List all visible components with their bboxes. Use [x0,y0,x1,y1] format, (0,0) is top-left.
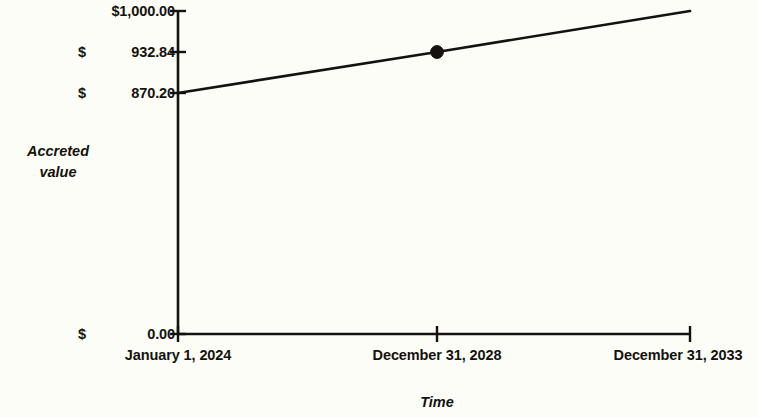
y-tick-label-1000: $1,000.00 [78,2,175,20]
y-tick-label-932-value: 932.84 [131,43,175,61]
data-point-marker [431,46,444,59]
x-tick-label-middle: December 31, 2028 [347,345,527,365]
y-tick-label-870: $ 870.20 [78,84,175,102]
y-tick-label-870-value: 870.20 [131,84,175,102]
y-tick-label-zero: $ 0.00 [78,325,175,343]
y-tick-label-1000-value: $1,000.00 [111,2,175,20]
x-axis-title: Time [377,392,497,412]
y-tick-label-932: $ 932.84 [78,43,175,61]
y-axis-title: Accreted value [4,141,112,183]
y-tick-label-zero-currency: $ [78,325,86,343]
accreted-value-chart: $1,000.00 $ 932.84 $ 870.20 $ 0.00 Janua… [0,0,758,417]
y-tick-label-zero-value: 0.00 [147,325,175,343]
x-tick-label-end: December 31, 2033 [598,345,758,365]
y-tick-label-870-currency: $ [78,84,86,102]
x-tick-label-start: January 1, 2024 [98,345,258,365]
y-tick-label-932-currency: $ [78,43,86,61]
